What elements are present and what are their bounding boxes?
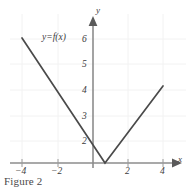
x-tick-label-minus2: −2 bbox=[51, 167, 62, 177]
graph-plot bbox=[0, 0, 191, 194]
curve-equation-label: y=f(x) bbox=[42, 33, 66, 43]
y-tick-label-3: 3 bbox=[82, 112, 87, 122]
y-tick-label-6: 6 bbox=[82, 35, 87, 45]
figure-caption: Figure 2 bbox=[4, 176, 43, 187]
x-axis bbox=[10, 159, 182, 168]
y-axis-name: y bbox=[96, 6, 100, 15]
y-tick-label-2: 2 bbox=[82, 137, 87, 147]
x-tick-label-4: 4 bbox=[160, 167, 165, 177]
x-axis-name: x bbox=[178, 155, 182, 164]
x-tick-label-2: 2 bbox=[125, 167, 130, 177]
gridlines bbox=[10, 14, 186, 163]
figure-container: −4 −2 2 4 2 3 4 5 6 x y y=f(x) Figure 2 bbox=[0, 0, 191, 194]
y-tick-label-5: 5 bbox=[82, 60, 87, 70]
y-tick-label-4: 4 bbox=[82, 86, 87, 96]
